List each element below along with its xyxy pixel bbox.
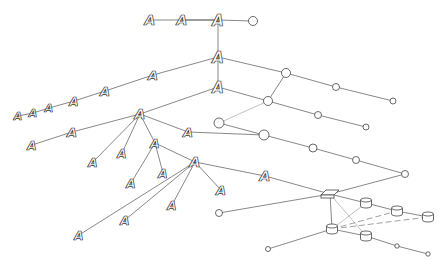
host-node[interactable]: A bbox=[68, 95, 78, 109]
hub-node[interactable] bbox=[266, 247, 271, 252]
disk-node[interactable] bbox=[361, 198, 372, 208]
hub-node[interactable] bbox=[402, 171, 409, 178]
hub-node[interactable] bbox=[363, 124, 369, 130]
host-node[interactable]: A bbox=[26, 139, 36, 153]
hub-node[interactable] bbox=[259, 130, 269, 140]
network-nodes: AAAAAAAAAAAAAAAAAAAAAAAAAA bbox=[13, 12, 434, 257]
host-a-icon: A bbox=[189, 154, 201, 170]
host-node[interactable]: A bbox=[44, 102, 54, 115]
connection-line bbox=[268, 229, 332, 249]
hub-circle-icon bbox=[259, 130, 269, 140]
host-node[interactable]: A bbox=[211, 12, 224, 30]
network-canvas: AAAAAAAAAAAAAAAAAAAAAAAAAA bbox=[0, 0, 446, 271]
host-node[interactable]: A bbox=[28, 107, 38, 120]
host-a-icon: A bbox=[99, 84, 110, 99]
switch-side bbox=[321, 195, 334, 198]
host-node[interactable]: A bbox=[189, 154, 201, 170]
host-node[interactable]: A bbox=[99, 84, 110, 99]
hub-node[interactable] bbox=[309, 144, 317, 152]
host-node[interactable]: A bbox=[125, 177, 135, 191]
disk-node[interactable] bbox=[392, 206, 403, 216]
hub-node[interactable] bbox=[333, 84, 340, 91]
host-node[interactable]: A bbox=[215, 183, 226, 198]
switch-node[interactable] bbox=[321, 190, 339, 198]
hub-node[interactable] bbox=[390, 98, 396, 104]
disk-node[interactable] bbox=[327, 224, 338, 234]
host-a-icon: A bbox=[211, 49, 224, 67]
connection-line bbox=[264, 135, 313, 148]
host-node[interactable]: A bbox=[66, 125, 77, 140]
hub-circle-icon bbox=[216, 210, 223, 217]
hub-circle-icon bbox=[249, 17, 258, 26]
connection-line bbox=[268, 73, 286, 101]
host-node[interactable]: A bbox=[149, 137, 159, 151]
switch-icon bbox=[321, 190, 339, 195]
connection-line bbox=[218, 57, 286, 73]
host-a-icon: A bbox=[149, 137, 159, 151]
host-node[interactable]: A bbox=[116, 147, 126, 161]
host-a-icon: A bbox=[182, 125, 193, 140]
host-a-icon: A bbox=[116, 147, 126, 161]
disk-node[interactable] bbox=[423, 212, 434, 222]
host-node[interactable]: A bbox=[119, 214, 129, 228]
hub-circle-icon bbox=[282, 69, 291, 78]
host-node[interactable]: A bbox=[73, 229, 83, 243]
host-a-icon: A bbox=[176, 12, 188, 28]
host-node[interactable]: A bbox=[144, 12, 156, 28]
host-a-icon: A bbox=[215, 183, 226, 198]
host-a-icon: A bbox=[119, 214, 129, 228]
hub-circle-icon bbox=[353, 157, 360, 164]
hub-circle-icon bbox=[426, 252, 430, 256]
host-a-icon: A bbox=[125, 177, 135, 191]
connection-line bbox=[397, 246, 428, 254]
hub-circle-icon bbox=[266, 247, 271, 252]
hub-node[interactable] bbox=[353, 157, 360, 164]
hub-circle-icon bbox=[315, 112, 322, 119]
connection-line bbox=[72, 114, 140, 132]
host-a-icon: A bbox=[26, 139, 36, 153]
hub-node[interactable] bbox=[264, 97, 273, 106]
host-a-icon: A bbox=[87, 156, 97, 170]
host-a-icon: A bbox=[68, 95, 78, 109]
connection-line bbox=[218, 87, 268, 101]
disk-node[interactable] bbox=[361, 231, 372, 241]
host-node[interactable]: A bbox=[176, 12, 188, 28]
connection-line bbox=[268, 101, 318, 115]
host-a-icon: A bbox=[144, 12, 156, 28]
hub-circle-icon bbox=[309, 144, 317, 152]
hub-node[interactable] bbox=[315, 112, 322, 119]
connection-line bbox=[332, 211, 397, 229]
hub-node[interactable] bbox=[216, 210, 223, 217]
hub-node[interactable] bbox=[214, 118, 224, 128]
disk-top bbox=[327, 224, 338, 228]
hub-node[interactable] bbox=[249, 17, 258, 26]
connection-line bbox=[286, 73, 336, 87]
hub-node[interactable] bbox=[395, 244, 399, 248]
connection-line bbox=[153, 57, 218, 75]
network-diagram: AAAAAAAAAAAAAAAAAAAAAAAAAA bbox=[0, 0, 446, 271]
host-node[interactable]: A bbox=[157, 167, 167, 181]
host-node[interactable]: A bbox=[147, 68, 158, 83]
connection-line bbox=[140, 87, 218, 114]
host-node[interactable]: A bbox=[87, 156, 97, 170]
connection-line bbox=[219, 194, 330, 213]
host-node[interactable]: A bbox=[134, 106, 146, 122]
hub-circle-icon bbox=[402, 171, 409, 178]
host-node[interactable]: A bbox=[211, 49, 224, 67]
host-a-icon: A bbox=[134, 106, 146, 122]
host-node[interactable]: A bbox=[211, 79, 224, 97]
connection-line bbox=[318, 115, 366, 127]
host-a-icon: A bbox=[66, 125, 77, 140]
host-node[interactable]: A bbox=[13, 110, 23, 123]
host-a-icon: A bbox=[157, 167, 167, 181]
host-node[interactable]: A bbox=[182, 125, 193, 140]
hub-node[interactable] bbox=[282, 69, 291, 78]
host-node[interactable]: A bbox=[259, 168, 271, 184]
connection-line bbox=[140, 114, 188, 132]
host-node[interactable]: A bbox=[166, 199, 176, 213]
host-a-icon: A bbox=[73, 229, 83, 243]
hub-circle-icon bbox=[333, 84, 340, 91]
host-a-icon: A bbox=[13, 110, 23, 123]
hub-node[interactable] bbox=[426, 252, 430, 256]
connection-line bbox=[195, 162, 265, 176]
